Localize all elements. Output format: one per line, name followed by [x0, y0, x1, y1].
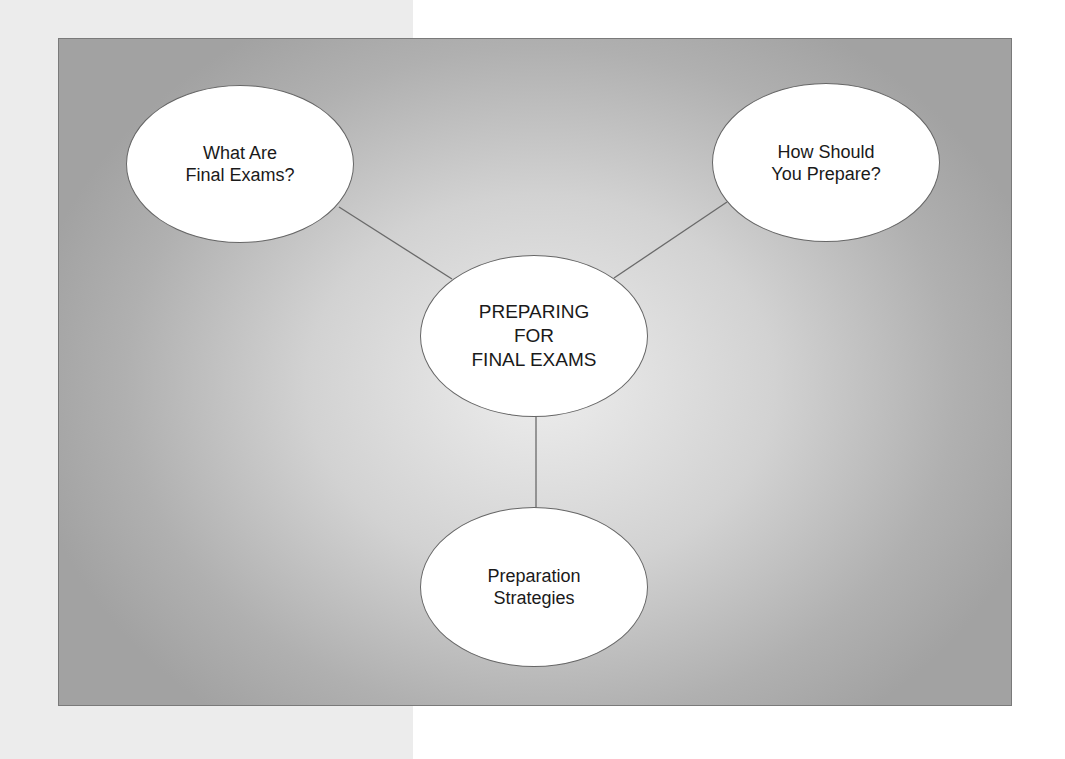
node-label-line: Final Exams? — [185, 164, 294, 186]
node-how-should-you-prepare: How Should You Prepare? — [712, 83, 940, 242]
node-label-line: How Should — [777, 141, 874, 163]
connector-top-left — [339, 207, 452, 279]
center-label-line: PREPARING — [479, 300, 590, 324]
center-label-line: FOR — [514, 324, 554, 348]
node-what-are-final-exams: What Are Final Exams? — [126, 85, 354, 243]
node-label-line: Preparation — [487, 565, 580, 587]
node-label-line: What Are — [203, 142, 277, 164]
node-label-line: You Prepare? — [771, 163, 880, 185]
node-preparation-strategies: Preparation Strategies — [420, 507, 648, 667]
center-label-line: FINAL EXAMS — [472, 348, 597, 372]
node-center-preparing-for-final-exams: PREPARING FOR FINAL EXAMS — [420, 255, 648, 417]
connector-top-right — [614, 202, 727, 278]
node-label-line: Strategies — [493, 587, 574, 609]
